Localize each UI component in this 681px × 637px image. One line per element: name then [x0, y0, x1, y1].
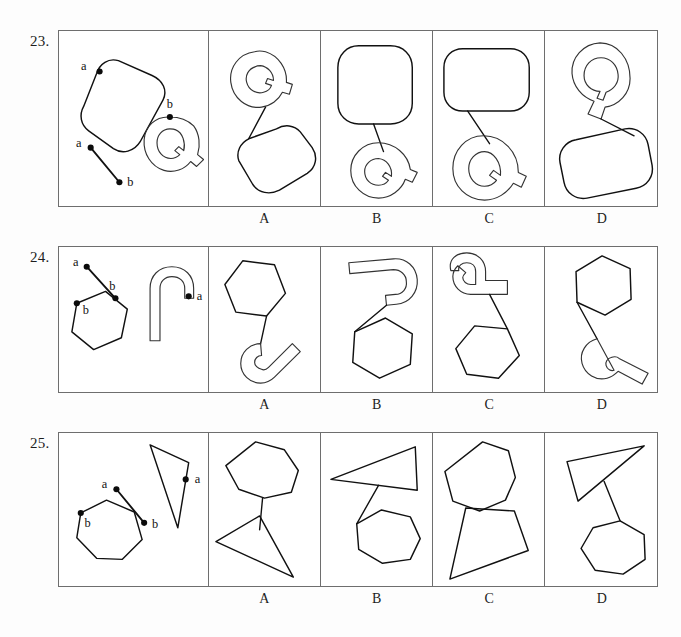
item-23-option-b-figure [321, 31, 432, 206]
item-23-option-d[interactable] [545, 31, 657, 206]
segment-a-label: a [76, 136, 82, 150]
item-25-option-a-figure [209, 433, 320, 586]
reference-segment [91, 148, 120, 183]
item-25-option-a[interactable] [209, 433, 321, 586]
item-25-label-b: B [321, 592, 434, 606]
point-b-label-shape: b [85, 516, 91, 530]
item-24-label-b: B [321, 398, 434, 412]
point-b-dot-shape [78, 510, 84, 516]
item-24-option-c[interactable] [433, 247, 545, 392]
item-23-option-a[interactable] [209, 31, 321, 206]
test-page: 23. a b [0, 0, 681, 637]
item-23-grid: a b a b [58, 30, 658, 207]
item-24-option-a-figure [209, 247, 320, 392]
item-24-prompt-figure: a b b a [59, 247, 208, 392]
item-25-option-b[interactable] [321, 433, 433, 586]
item-24-label-d: D [546, 398, 659, 412]
item-25-label-c: C [433, 592, 546, 606]
point-a-dot-shape [97, 68, 103, 74]
point-b-dot-shape [74, 300, 80, 306]
item-23-label-c: C [433, 212, 546, 226]
item-24-label-c: C [433, 398, 546, 412]
item-23-option-c-figure [433, 31, 544, 206]
segment-a-dot [88, 145, 94, 151]
item-25-prompt-figure: a b a b [59, 433, 208, 586]
item-23-option-c[interactable] [433, 31, 545, 206]
point-a-label-shape: a [197, 289, 203, 303]
point-a-label-shape: a [195, 472, 201, 486]
item-number-23: 23. [30, 34, 49, 49]
item-23-option-b[interactable] [321, 31, 433, 206]
item-25-option-d-figure [545, 433, 657, 586]
item-24-option-b[interactable] [321, 247, 433, 392]
segment-b-label: b [127, 175, 133, 189]
item-24-prompt-cell: a b b a [59, 247, 209, 392]
segment-b-label: b [152, 517, 158, 531]
item-23-prompt-figure: a b a b [59, 31, 208, 206]
point-b-label-shape: b [83, 303, 89, 317]
item-25-grid: a b a b [58, 432, 658, 587]
item-23-option-d-figure [545, 31, 657, 206]
point-a-label-shape: a [81, 59, 87, 73]
item-number-25: 25. [30, 436, 49, 451]
point-a-dot-shape [186, 293, 192, 299]
item-25-label-d: D [546, 592, 659, 606]
item-25-option-labels: A B C D [208, 592, 658, 606]
item-25-option-c[interactable] [433, 433, 545, 586]
item-25-label-a: A [208, 592, 321, 606]
segment-a-label: a [73, 255, 79, 269]
segment-a-dot [84, 264, 90, 270]
item-24-label-a: A [208, 398, 321, 412]
item-24-option-d-figure [545, 247, 657, 392]
item-24-option-labels: A B C D [208, 398, 658, 412]
segment-a-dot [113, 486, 119, 492]
segment-b-label: b [109, 279, 115, 293]
segment-a-label: a [102, 477, 108, 491]
item-25-prompt-cell: a b a b [59, 433, 209, 586]
item-25-option-b-figure [321, 433, 432, 586]
item-24-grid: a b b a [58, 246, 658, 393]
segment-b-dot [141, 520, 147, 526]
item-number-24: 24. [30, 250, 49, 265]
item-23-prompt-cell: a b a b [59, 31, 209, 206]
item-23-option-labels: A B C D [208, 212, 658, 226]
item-24-option-c-figure [433, 247, 544, 392]
item-23-label-b: B [321, 212, 434, 226]
point-a-dot-shape [183, 476, 189, 482]
item-25-option-c-figure [433, 433, 544, 586]
item-23-label-d: D [546, 212, 659, 226]
segment-b-dot [116, 179, 122, 185]
item-24-option-d[interactable] [545, 247, 657, 392]
item-24-option-b-figure [321, 247, 432, 392]
item-23-option-a-figure [209, 31, 320, 206]
point-b-dot-shape [167, 114, 173, 120]
point-b-label-shape: b [167, 97, 173, 111]
item-25-option-d[interactable] [545, 433, 657, 586]
item-24-option-a[interactable] [209, 247, 321, 392]
item-23-label-a: A [208, 212, 321, 226]
